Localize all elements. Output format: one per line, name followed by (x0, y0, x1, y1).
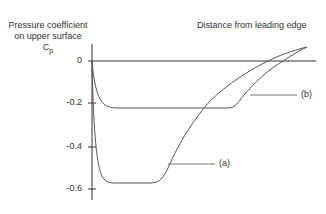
curve-b (92, 47, 307, 108)
curve-a (92, 47, 307, 183)
plot-area (0, 0, 326, 214)
curve-label-b: (b) (301, 89, 312, 99)
curve-label-a: (a) (219, 158, 230, 168)
pressure-coefficient-chart: Pressure coefficient on upper surface Cp… (0, 0, 326, 214)
